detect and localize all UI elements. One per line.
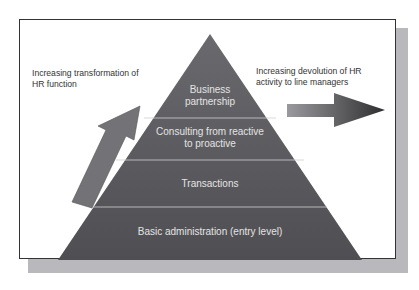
right-arrow-icon [287,93,385,127]
left-label: Increasing transformation of HR function [32,68,139,89]
layer-transactions: Transactions [130,178,290,190]
layer-consulting: Consulting from reactive to proactive [130,126,290,150]
right-label: Increasing devolution of HR activity to … [256,66,362,87]
layer-business-partnership: Business partnership [150,84,270,108]
layer-basic-administration: Basic administration (entry level) [100,226,320,238]
